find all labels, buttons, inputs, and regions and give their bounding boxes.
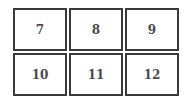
cell-7[interactable]: 7: [13, 8, 67, 51]
cell-12[interactable]: 12: [125, 53, 179, 96]
cell-label: 9: [148, 23, 156, 37]
cell-label: 7: [36, 23, 44, 37]
cell-8[interactable]: 8: [69, 8, 123, 51]
cell-label: 8: [92, 23, 100, 37]
cell-11[interactable]: 11: [69, 53, 123, 96]
number-grid: 7 8 9 10 11 12: [13, 8, 179, 96]
cell-9[interactable]: 9: [125, 8, 179, 51]
cell-label: 12: [144, 68, 161, 82]
cell-label: 10: [32, 68, 49, 82]
cell-label: 11: [88, 68, 105, 82]
cell-10[interactable]: 10: [13, 53, 67, 96]
